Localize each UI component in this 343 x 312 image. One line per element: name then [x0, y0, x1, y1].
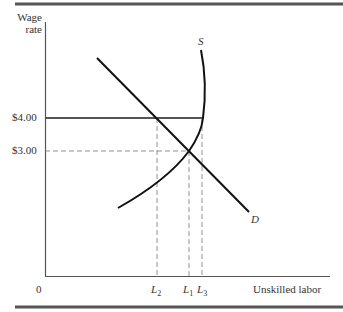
x-tick-l3: L3	[197, 283, 207, 298]
x-axis-label: Unskilled labor	[253, 283, 321, 295]
y-axis-label: Wage rate	[14, 11, 42, 35]
y-axis-label-line1: Wage	[14, 11, 42, 23]
demand-curve	[97, 58, 249, 212]
supply-label: S	[198, 35, 204, 47]
demand-label: D	[251, 213, 259, 225]
supply-curve	[118, 50, 205, 208]
origin-label: 0	[36, 283, 42, 295]
y-tick-4: $4.00	[12, 111, 37, 123]
y-tick-3: $3.00	[12, 144, 37, 156]
y-axis-label-line2: rate	[14, 23, 42, 35]
x-tick-l1: L1	[183, 283, 193, 298]
x-tick-l2: L2	[151, 283, 161, 298]
chart-canvas	[0, 0, 343, 312]
